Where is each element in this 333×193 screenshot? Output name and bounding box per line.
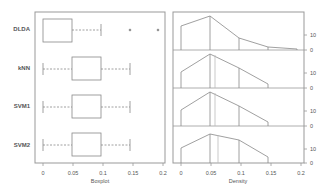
x-tick-label: 0.05	[68, 170, 79, 176]
density-frame	[173, 12, 304, 163]
chart-canvas: DLDA kNN SVM1 SVM2	[0, 0, 333, 193]
row-label-svm2: SVM2	[14, 142, 31, 148]
density-svm2	[181, 134, 268, 163]
box-svm2	[43, 133, 130, 156]
density-panel: 10 0 10 0 10 0 10 0 0 0.05 0.1 0.15 0.2 …	[173, 12, 316, 184]
boxplot-x-axis-label: Boxplot	[91, 178, 110, 184]
row-label-knn: kNN	[18, 65, 30, 71]
y-tick-label: 10	[310, 146, 316, 152]
x-tick-label: 0.15	[266, 170, 277, 176]
x-tick-label: 0.1	[99, 170, 107, 176]
boxplot-panel: DLDA kNN SVM1 SVM2	[13, 12, 167, 184]
y-tick-label: 10	[310, 70, 316, 76]
x-tick-label: 0.15	[128, 170, 139, 176]
boxplot-frame	[35, 12, 165, 163]
density-knn	[181, 54, 268, 88]
x-tick-label: 0.2	[159, 170, 167, 176]
x-tick-label: 0	[179, 170, 182, 176]
y-tick-label: 0	[310, 85, 313, 91]
density-x-axis-label: Density	[229, 178, 248, 184]
density-svm1	[181, 92, 268, 126]
box-knn	[43, 57, 130, 80]
box-svm1	[43, 95, 130, 118]
x-tick-label: 0	[41, 170, 44, 176]
y-tick-label: 10	[310, 32, 316, 38]
y-tick-label: 10	[310, 108, 316, 114]
x-tick-label: 0.1	[237, 170, 245, 176]
density-dlda	[181, 16, 297, 50]
x-tick-label: 0.2	[297, 170, 305, 176]
x-tick-label: 0.05	[206, 170, 217, 176]
row-label-dlda: DLDA	[13, 26, 30, 32]
box-dlda	[43, 19, 159, 42]
y-tick-label: 0	[310, 160, 313, 166]
y-tick-label: 0	[310, 123, 313, 129]
y-tick-label: 0	[310, 47, 313, 53]
row-label-svm1: SVM1	[14, 103, 31, 109]
